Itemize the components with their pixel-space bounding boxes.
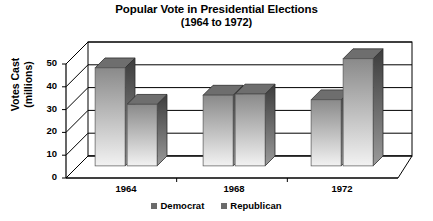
bar-side-republican-1964	[157, 94, 167, 165]
axis-depth-tick	[66, 110, 88, 132]
bar-democrat-1964[interactable]	[95, 68, 125, 166]
bar-side-republican-1972	[373, 49, 383, 166]
axis-depth-tick	[66, 133, 88, 155]
x-tick-label: 1972	[312, 183, 372, 194]
chart-legend: DemocratRepublican	[0, 200, 433, 211]
legend-item-republican[interactable]: Republican	[221, 200, 281, 211]
bar-republican-1964[interactable]	[127, 104, 157, 166]
y-tick-label: 10	[31, 149, 57, 159]
y-tick-label: 40	[31, 81, 57, 91]
y-tick-label: 20	[31, 126, 57, 136]
bar-democrat-1968[interactable]	[203, 95, 233, 166]
legend-swatch-icon	[221, 203, 227, 209]
bar-republican-1968[interactable]	[235, 94, 265, 166]
y-tick-label: 50	[31, 58, 57, 68]
bar-democrat-1972[interactable]	[311, 100, 341, 166]
legend-swatch-icon	[151, 203, 157, 209]
x-tick-label: 1964	[96, 183, 156, 194]
bar-side-republican-1968	[265, 84, 275, 166]
axis-depth-tick	[66, 65, 88, 87]
y-tick-label: 30	[31, 104, 57, 114]
axis-depth-tick	[66, 88, 88, 110]
legend-label: Republican	[230, 200, 281, 211]
bar-republican-1972[interactable]	[343, 59, 373, 166]
legend-label: Democrat	[160, 200, 204, 211]
x-tick-label: 1968	[204, 183, 264, 194]
axis-depth-tick	[66, 42, 88, 64]
legend-item-democrat[interactable]: Democrat	[151, 200, 204, 211]
bar-chart: Popular Vote in Presidential Elections (…	[0, 0, 433, 221]
y-tick-label: 0	[31, 172, 57, 182]
